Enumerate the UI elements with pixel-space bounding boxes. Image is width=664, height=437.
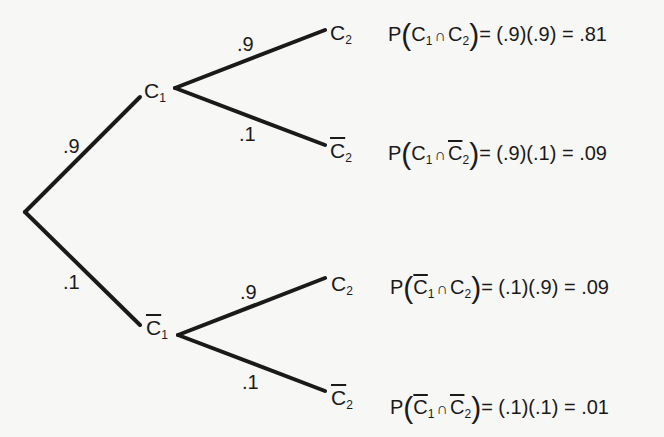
prob-label-c2-given-c1bar: .9 [240,282,257,302]
equation-c1-and-c2: P(C1∩C2)= (.9)(.9) = .81 [388,20,607,50]
probability-tree-lines [0,0,664,437]
prob-label-c2-given-c1: .9 [237,34,254,54]
node-c1bar: C1 [146,317,168,341]
node-c2bar-upper: C2 [330,140,352,164]
prob-label-c1: .9 [63,136,80,156]
prob-label-c2bar-given-c1bar: .1 [242,372,259,392]
node-c1: C1 [144,80,166,104]
equation-rhs: = (.9)(.9) = .81 [479,23,607,45]
node-c2bar-lower: C2 [331,387,353,411]
prob-label-c2bar-given-c1: .1 [239,124,256,144]
equation-rhs: = (.1)(.1) = .01 [481,396,609,418]
prob-label-c1bar: .1 [63,272,80,292]
equation-c1bar-and-c2bar: P(C1∩C2)= (.1)(.1) = .01 [390,393,609,423]
node-c2-upper: C2 [330,22,352,46]
equation-rhs: = (.9)(.1) = .09 [479,142,607,164]
node-c2-lower: C2 [331,273,353,297]
branch-root-c1 [25,97,140,212]
equation-c1bar-and-c2: P(C1∩C2)= (.1)(.9) = .09 [390,273,609,303]
equation-rhs: = (.1)(.9) = .09 [481,276,609,298]
equation-c1-and-c2bar: P(C1∩C2)= (.9)(.1) = .09 [388,139,607,169]
branch-root-c1bar [25,212,140,325]
